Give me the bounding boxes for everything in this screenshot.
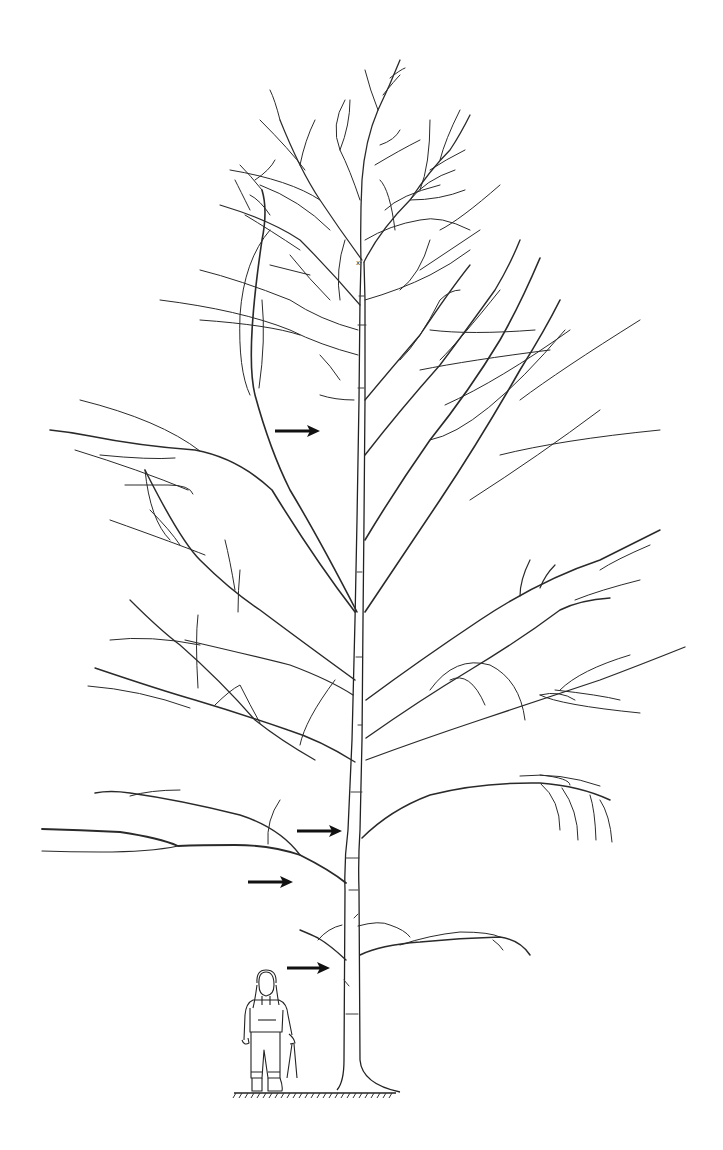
tree-drawing: x [0, 0, 723, 1150]
annotation-arrows [248, 425, 342, 974]
tree-illustration: x [0, 0, 723, 1150]
person-scale-figure [242, 970, 297, 1091]
left-branches [42, 190, 357, 883]
person-head [259, 972, 274, 996]
arrow-icon-upper-crown [275, 425, 320, 437]
arrow-icon-lowest-limb [287, 962, 330, 974]
svg-text:x: x [356, 259, 360, 267]
right-branches [300, 230, 685, 960]
upper-crown [160, 60, 500, 400]
trunk: x [337, 259, 400, 1092]
arrow-icon-lower-crown [297, 825, 342, 837]
ground-hatching [233, 1093, 392, 1098]
arrow-icon-first-scaffold [248, 876, 293, 888]
ground-line [233, 1093, 396, 1098]
